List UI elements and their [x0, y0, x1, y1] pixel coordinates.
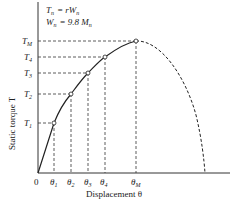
formula-block: Tn= rWn Wn= 9.8 Mn: [46, 5, 92, 28]
tick-theta3: θ3: [84, 177, 91, 188]
curve-points: [52, 39, 138, 125]
tick-T3: T3: [24, 68, 32, 79]
horizontal-guides: [38, 41, 136, 123]
tick-T4: T4: [24, 52, 32, 63]
torque-displacement-diagram: Tn= rWn Wn= 9.8 Mn T1 T2 T3 T4 TM Static…: [0, 0, 236, 203]
tick-theta2: θ2: [67, 177, 74, 188]
origin-label: 0: [34, 177, 39, 187]
svg-text:Wn= 9.8 Mn: Wn= 9.8 Mn: [46, 17, 92, 28]
tick-theta4: θ4: [100, 177, 107, 188]
svg-text:Tn= rWn: Tn= rWn: [46, 5, 79, 16]
tick-TM: TM: [22, 36, 33, 47]
torque-curve-rising: [38, 41, 136, 173]
y-axis-title: Static torque T: [7, 96, 17, 150]
tick-T2: T2: [24, 89, 32, 100]
tick-T1: T1: [24, 118, 32, 129]
tick-theta1: θ1: [50, 177, 57, 188]
tick-thetaM: θM: [131, 177, 141, 188]
x-axis-title: Displacement θ: [86, 189, 142, 199]
vertical-guides: [54, 41, 136, 173]
torque-curve-falling: [136, 41, 205, 173]
y-tick-labels: T1 T2 T3 T4 TM: [22, 36, 33, 129]
x-tick-labels: 0 θ1 θ2 θ3 θ4 θM: [34, 177, 141, 188]
